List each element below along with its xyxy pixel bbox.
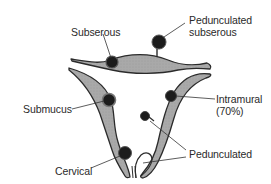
label-cervical: Cervical xyxy=(55,165,92,177)
label-submucus-text: Submucus xyxy=(23,103,72,115)
uterine-wall-left xyxy=(69,68,130,178)
label-pedunculated-text: Pedunculated xyxy=(189,148,252,160)
leader-pedunculated-subserous xyxy=(164,23,185,37)
label-intramural: Intramural (70%) xyxy=(216,93,262,117)
leader-pedunculated-2 xyxy=(143,157,186,163)
cervical-canal-left xyxy=(132,166,133,178)
fibroid-pedunculated-submucous xyxy=(141,112,150,121)
label-submucus: Submucus xyxy=(23,103,72,115)
fibroid-subserous xyxy=(106,56,118,68)
label-intramural-line1: Intramural xyxy=(216,93,262,105)
label-pedunculated: Pedunculated xyxy=(189,148,252,160)
label-pedunculated-subserous: Pedunculated subserous xyxy=(189,14,252,38)
label-subserous-text: Subserous xyxy=(71,26,120,38)
fibroid-cervical xyxy=(119,147,132,160)
leader-cervical xyxy=(91,156,120,168)
uterine-fundus xyxy=(71,55,211,74)
fibroid-pedunculated-subserous xyxy=(152,35,166,49)
label-cervical-text: Cervical xyxy=(55,165,92,177)
label-pedunculated-subserous-line2: subserous xyxy=(189,26,252,38)
fibroid-submucus xyxy=(103,94,116,107)
fibroid-pedunculated-stalk xyxy=(149,117,154,121)
label-pedunculated-subserous-line1: Pedunculated xyxy=(189,14,252,26)
fibroid-intramural xyxy=(166,91,177,102)
label-intramural-line2: (70%) xyxy=(216,105,262,117)
label-subserous: Subserous xyxy=(71,26,120,38)
